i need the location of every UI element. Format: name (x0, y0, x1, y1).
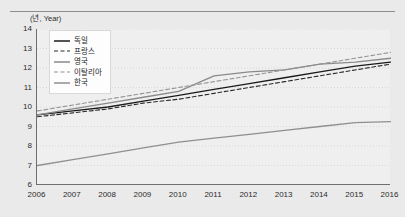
x-axis-tick-label: 2015 (334, 190, 374, 199)
legend-label: 한국 (74, 78, 88, 87)
legend-item[interactable]: 독일 (54, 36, 105, 46)
legend-label: 영국 (74, 57, 88, 66)
y-axis-tick-label: 11 (8, 83, 32, 92)
x-axis-tick-label: 2007 (52, 190, 92, 199)
y-axis-tick-label: 10 (8, 102, 32, 111)
x-axis-tick-label: 2011 (193, 190, 233, 199)
y-axis-unit-label: (년, Year) (30, 12, 61, 23)
x-axis-tick-label: 2009 (122, 190, 162, 199)
y-axis-tick-label: 13 (8, 44, 32, 53)
header-divider (10, 11, 395, 12)
legend-label: 독일 (74, 36, 88, 45)
legend-line-swatch (54, 68, 70, 76)
chart-figure: (년, Year) (년) 67891011121314 20062007200… (0, 0, 405, 217)
legend-line-swatch (54, 47, 70, 55)
y-axis-tick-label: 12 (8, 63, 32, 72)
y-axis-tick-label: 8 (8, 141, 32, 150)
x-axis-tick-label: 2014 (299, 190, 339, 199)
series-line (38, 122, 391, 166)
x-axis-tick-label: 2006 (17, 190, 57, 199)
legend-label: 프랑스 (74, 47, 95, 56)
legend-label: 이탈리아 (74, 68, 102, 77)
chart-legend: 독일프랑스영국이탈리아한국 (49, 30, 111, 94)
y-axis-tick-label: 7 (8, 161, 32, 170)
legend-line-swatch (54, 58, 70, 66)
x-axis-tick-label: 2008 (87, 190, 127, 199)
x-axis-tick-label: 2016 (370, 190, 405, 199)
x-axis-tick-label: 2012 (228, 190, 268, 199)
legend-item[interactable]: 프랑스 (54, 47, 105, 57)
legend-item[interactable]: 영국 (54, 57, 105, 67)
legend-item[interactable]: 이탈리아 (54, 68, 105, 78)
x-axis-tick-label: 2013 (264, 190, 304, 199)
legend-line-swatch (54, 79, 70, 87)
x-axis-tick-label: 2010 (158, 190, 198, 199)
y-axis-tick-label: 6 (8, 180, 32, 189)
legend-item[interactable]: 한국 (54, 78, 105, 88)
legend-line-swatch (54, 37, 70, 45)
y-axis-tick-label: 9 (8, 122, 32, 131)
y-axis-tick-label: 14 (8, 24, 32, 33)
